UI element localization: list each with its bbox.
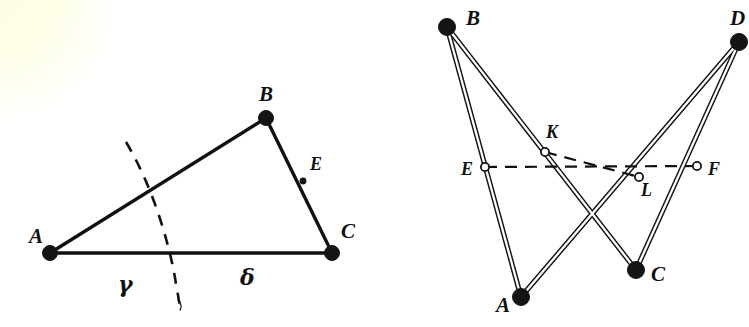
vertex-A-node	[513, 289, 530, 306]
vertex-C-node	[628, 262, 645, 279]
vertex-label-A: A	[27, 224, 43, 248]
vertex-label-B: B	[465, 6, 480, 30]
point-label-E: E	[309, 154, 322, 174]
point-F-node	[693, 162, 701, 170]
point-label-F: F	[707, 159, 720, 179]
vertex-label-C: C	[651, 262, 666, 286]
diagram-page: A B C E γ δ	[0, 0, 749, 327]
point-label-L: L	[640, 180, 652, 200]
dashed-line-E-F	[485, 166, 697, 167]
segment-A-B	[50, 118, 266, 253]
vertex-label-A: A	[494, 293, 510, 317]
vertex-B-node	[439, 19, 456, 36]
vertex-label-B: B	[258, 82, 273, 106]
vertex-D-node	[731, 34, 748, 51]
vertex-B-node	[259, 111, 274, 126]
segment-B-C	[266, 118, 332, 253]
vertex-label-C: C	[341, 219, 356, 243]
vertex-label-D: D	[729, 6, 745, 30]
rod-B-A-core	[447, 27, 521, 297]
point-K-node	[541, 148, 549, 156]
figure-right-linkage: B D A C E K L F	[390, 0, 749, 327]
arc-tail-hook	[178, 300, 181, 310]
point-label-E: E	[460, 159, 473, 179]
rod-D-C-core	[636, 42, 739, 270]
vertex-A-node	[43, 246, 58, 261]
point-E-node	[300, 178, 307, 185]
angle-label-gamma: γ	[118, 271, 134, 297]
vertex-C-node	[325, 246, 340, 261]
angle-arc-dashed	[126, 142, 180, 307]
angle-label-delta: δ	[239, 264, 255, 290]
figure-left-triangle: A B C E γ δ	[0, 0, 390, 327]
point-label-K: K	[545, 122, 560, 142]
point-E-node	[481, 163, 489, 171]
